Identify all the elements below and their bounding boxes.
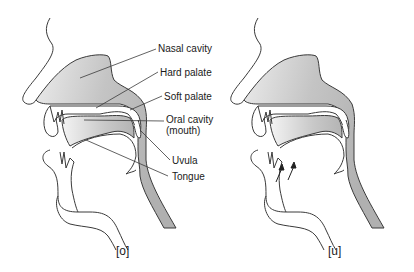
label-oral-cavity: Oral cavity bbox=[166, 114, 213, 125]
label-hard-palate: Hard palate bbox=[160, 67, 212, 78]
label-nasal-cavity: Nasal cavity bbox=[158, 43, 212, 54]
label-oral-cavity-mouth: (mouth) bbox=[166, 125, 200, 136]
label-soft-palate: Soft palate bbox=[164, 91, 212, 102]
caption-o: [o] bbox=[116, 244, 129, 258]
caption-u: [u] bbox=[328, 244, 341, 258]
label-uvula: Uvula bbox=[172, 155, 198, 166]
diagram-u bbox=[231, 18, 384, 250]
label-tongue: Tongue bbox=[172, 171, 205, 182]
diagram-o bbox=[23, 18, 176, 250]
vocal-tract-diagrams bbox=[0, 0, 414, 272]
